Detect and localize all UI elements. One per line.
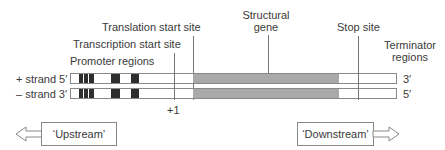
downstream-box: ‘Downstream’ bbox=[297, 122, 374, 146]
upstream-box: ‘Upstream’ bbox=[41, 122, 117, 146]
structural-gene-region bbox=[193, 74, 339, 83]
promoter-block-3 bbox=[131, 89, 139, 98]
promoter-block-3 bbox=[131, 74, 139, 83]
promoter-regions-label: Promoter regions bbox=[70, 55, 154, 67]
minus-strand-end: 5′ bbox=[403, 88, 411, 100]
plus-strand-label: + strand 5′ bbox=[16, 73, 67, 85]
transcription-start-marker bbox=[174, 73, 175, 99]
promoter-block-1 bbox=[79, 74, 94, 83]
minus-strand-label: – strand 3′ bbox=[16, 88, 67, 100]
gene-structure-diagram: Translation start site Transcription sta… bbox=[0, 0, 445, 150]
stop-site-marker bbox=[358, 73, 359, 99]
promoter-block-2 bbox=[111, 74, 120, 83]
terminator-regions-label: Terminator regions bbox=[375, 39, 445, 63]
transcription-start-label: Transcription start site bbox=[73, 38, 181, 50]
structural-gene-line bbox=[268, 35, 269, 73]
structural-gene-region bbox=[193, 89, 339, 98]
structural-gene-label: Structural gene bbox=[236, 9, 296, 33]
translation-start-label: Translation start site bbox=[102, 21, 201, 33]
plus-one-label: +1 bbox=[167, 104, 180, 116]
stop-site-label: Stop site bbox=[337, 21, 380, 33]
promoter-block-1 bbox=[79, 89, 94, 98]
minus-strand-bar bbox=[70, 88, 397, 99]
right-arrow-icon bbox=[373, 126, 403, 142]
plus-strand-end: 3′ bbox=[403, 73, 411, 85]
promoter-block-2 bbox=[111, 89, 120, 98]
plus-strand-bar bbox=[70, 73, 397, 84]
